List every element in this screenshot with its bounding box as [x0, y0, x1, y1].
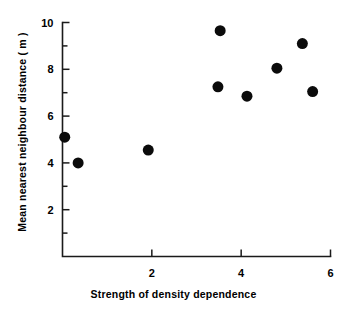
x-tick-label: 6	[327, 267, 333, 279]
ticks-group	[63, 23, 331, 257]
x-tick-label: 2	[149, 267, 155, 279]
data-point	[241, 91, 252, 102]
data-point	[73, 157, 84, 168]
y-axis-title: Mean nearest neighbour distance ( m )	[16, 16, 30, 248]
y-tick-label: 10	[41, 17, 53, 29]
tick-labels-group: 246810246	[41, 17, 333, 279]
axis-lines	[63, 23, 331, 257]
data-point	[59, 132, 70, 143]
data-point	[212, 81, 223, 92]
axes-group	[63, 23, 331, 257]
data-point	[143, 145, 154, 156]
data-points-group	[59, 25, 318, 168]
data-point	[271, 63, 282, 74]
y-tick-label: 6	[47, 110, 53, 122]
data-point	[307, 86, 318, 97]
plot-canvas: 246810246	[0, 0, 347, 312]
y-tick-label: 2	[47, 204, 53, 216]
scatter-plot-figure: 246810246 Strength of density dependence…	[0, 0, 347, 312]
data-point	[215, 25, 226, 36]
x-axis-title: Strength of density dependence	[0, 288, 347, 300]
y-tick-label: 4	[47, 157, 54, 169]
y-tick-label: 8	[47, 63, 53, 75]
data-point	[297, 38, 308, 49]
x-tick-label: 4	[238, 267, 245, 279]
